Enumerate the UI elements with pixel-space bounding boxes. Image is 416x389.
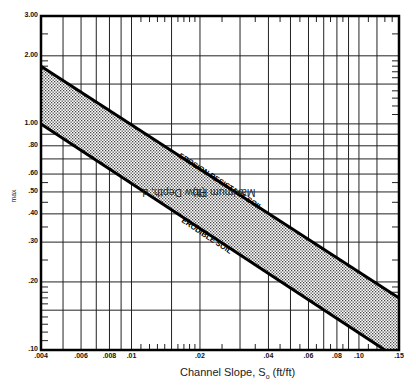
x-axis-label: Channel Slope, So (ft/ft) xyxy=(180,366,295,380)
y-axis-label: Maximum Flow Depth, dmax (ft) xyxy=(0,0,20,389)
y-tick-label: 3.00 xyxy=(4,11,38,18)
y-tick-label: .30 xyxy=(4,237,38,244)
x-tick-label: .02 xyxy=(195,352,205,359)
y-tick-label: .80 xyxy=(4,141,38,148)
x-tick-label: .06 xyxy=(304,352,314,359)
x-tick-label: .004 xyxy=(34,352,48,359)
x-tick-label: .10 xyxy=(354,352,364,359)
y-tick-label: .10 xyxy=(4,345,38,352)
x-tick-label: .008 xyxy=(103,352,117,359)
y-tick-label: .60 xyxy=(4,169,38,176)
y-tick-label: .20 xyxy=(4,277,38,284)
x-tick-label: .04 xyxy=(264,352,274,359)
y-tick-label: 1.00 xyxy=(4,119,38,126)
y-tick-label: 2.00 xyxy=(4,51,38,58)
shaded-band xyxy=(41,66,399,350)
x-tick-label: .15 xyxy=(394,352,404,359)
x-tick-label: .08 xyxy=(332,352,342,359)
x-tick-label: .006 xyxy=(74,352,88,359)
x-tick-label: .01 xyxy=(127,352,137,359)
y-tick-label: .40 xyxy=(4,209,38,216)
y-tick-label: .50 xyxy=(4,187,38,194)
